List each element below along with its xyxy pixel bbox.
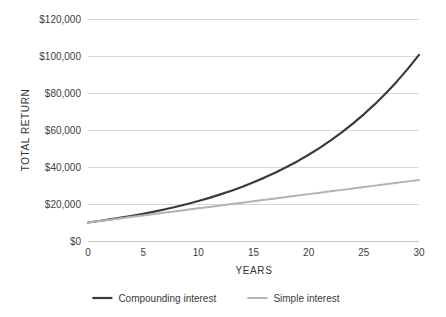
y-axis-tick-label: $60,000 — [45, 125, 82, 136]
x-axis-tick-label: 5 — [140, 247, 146, 258]
chart-background — [0, 0, 446, 317]
y-axis-tick-label: $120,000 — [39, 14, 81, 25]
line-chart: $0$20,000$40,000$60,000$80,000$100,000$1… — [0, 0, 446, 317]
y-axis-tick-label: $100,000 — [39, 51, 81, 62]
x-axis-tick-label: 25 — [358, 247, 370, 258]
y-axis-title: TOTAL RETURN — [20, 89, 31, 172]
x-axis-tick-label: 15 — [248, 247, 260, 258]
x-axis-tick-label: 20 — [303, 247, 315, 258]
legend-label: Simple interest — [273, 293, 339, 304]
y-axis-tick-label: $80,000 — [45, 88, 82, 99]
y-axis-tick-label: $20,000 — [45, 199, 82, 210]
x-axis-tick-label: 0 — [85, 247, 91, 258]
legend-label: Compounding interest — [118, 293, 216, 304]
x-axis-title: YEARS — [236, 265, 273, 276]
chart-container: $0$20,000$40,000$60,000$80,000$100,000$1… — [0, 0, 446, 317]
x-axis-tick-label: 10 — [193, 247, 205, 258]
y-axis-tick-label: $40,000 — [45, 162, 82, 173]
x-axis-tick-label: 30 — [413, 247, 425, 258]
y-axis-tick-label: $0 — [70, 236, 82, 247]
chart-legend: Compounding interestSimple interest — [92, 293, 339, 304]
